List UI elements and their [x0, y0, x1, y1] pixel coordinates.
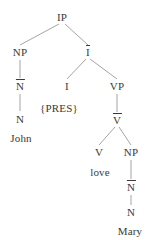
tree-node-ibar: I — [86, 46, 90, 58]
tree-node-nbar2: N — [127, 181, 135, 193]
tree-node-ip: IP — [57, 12, 67, 23]
tree-node-np1: NP — [13, 47, 27, 58]
syntax-tree-diagram: IPNPINIVPN{PRES}VJohnVNPloveNNMary — [0, 0, 151, 240]
tree-node-john: John — [10, 133, 32, 144]
tree-node-label-nbar1: N — [16, 80, 24, 92]
tree-node-n1: N — [16, 114, 24, 125]
tree-branch-vbar-v — [99, 127, 115, 145]
tree-branch-ibar-vp — [90, 59, 117, 79]
tree-node-nbar1: N — [16, 80, 24, 92]
tree-node-np2: NP — [124, 147, 138, 158]
tree-branch-vbar-np2 — [119, 127, 131, 145]
tree-node-vp: VP — [110, 81, 124, 92]
tree-node-label-ibar: I — [86, 46, 90, 58]
tree-branch-ip-ibar — [65, 24, 88, 45]
tree-node-vbar: V — [113, 114, 121, 126]
tree-node-v: V — [95, 147, 103, 158]
tree-node-pres: {PRES} — [40, 103, 78, 114]
tree-node-n2: N — [127, 207, 135, 218]
tree-node-mary: Mary — [118, 226, 143, 237]
tree-branch-ip-np1 — [20, 24, 59, 45]
tree-node-label-nbar2: N — [127, 181, 135, 193]
tree-node-i: I — [65, 81, 69, 92]
tree-node-label-vbar: V — [113, 114, 121, 126]
tree-branch-ibar-i — [67, 59, 86, 79]
tree-node-love: love — [90, 167, 110, 178]
